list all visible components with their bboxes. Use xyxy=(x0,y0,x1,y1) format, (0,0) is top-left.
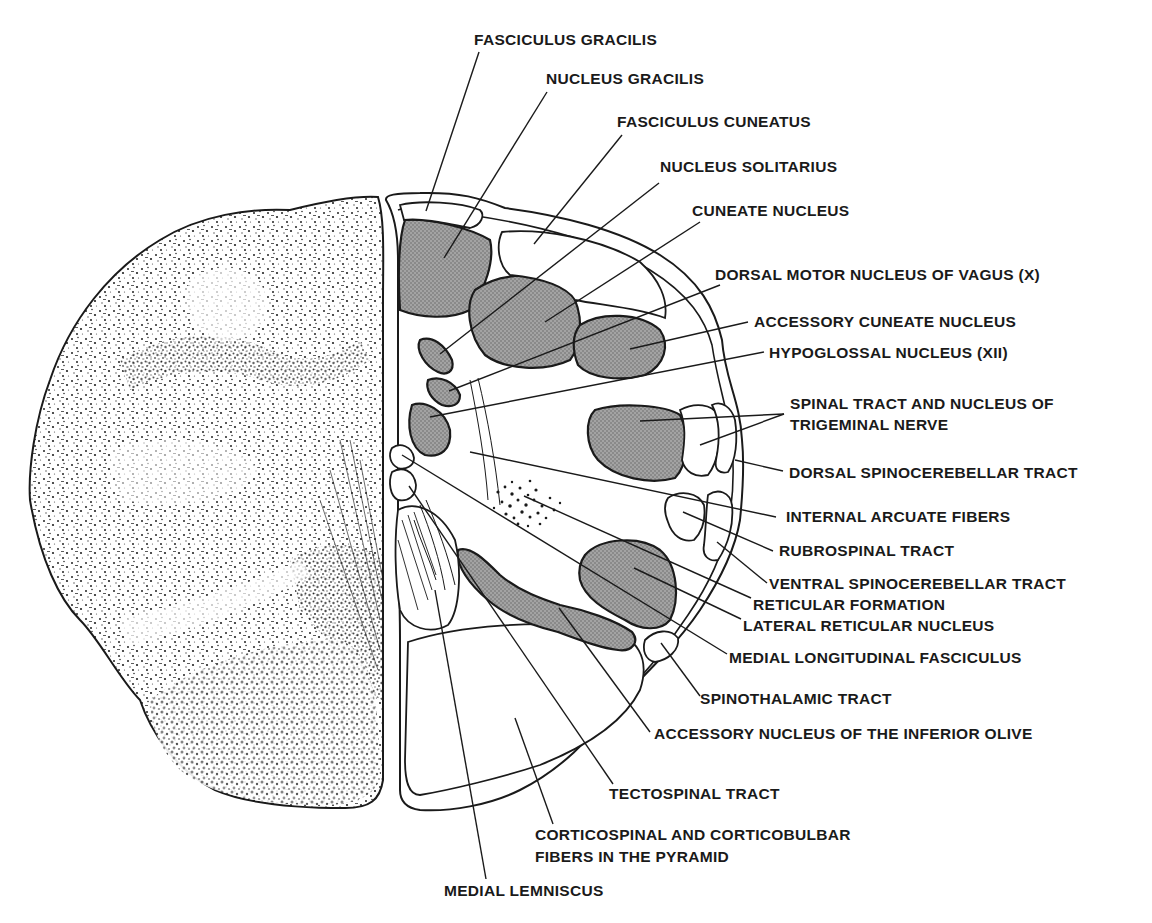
label-reticular-formation: RETICULAR FORMATION xyxy=(753,596,945,613)
labels: FASCICULUS GRACILIS NUCLEUS GRACILIS FAS… xyxy=(444,31,1078,899)
label-internal-arcuate: INTERNAL ARCUATE FIBERS xyxy=(786,508,1010,525)
label-medial-lemniscus: MEDIAL LEMNISCUS xyxy=(444,882,604,899)
tectospinal-tract xyxy=(390,469,416,500)
label-tectospinal: TECTOSPINAL TRACT xyxy=(609,785,780,802)
label-mlf: MEDIAL LONGITUDINAL FASCICULUS xyxy=(729,649,1022,666)
schematic-section xyxy=(386,193,743,810)
dorsal-motor-vagus-shape xyxy=(427,378,460,406)
label-hypoglossal: HYPOGLOSSAL NUCLEUS (XII) xyxy=(769,344,1008,361)
label-spinothalamic: SPINOTHALAMIC TRACT xyxy=(700,690,892,707)
label-accessory-olive: ACCESSORY NUCLEUS OF THE INFERIOR OLIVE xyxy=(654,725,1033,742)
leader-fasciculus-gracilis xyxy=(426,52,479,211)
histological-section xyxy=(30,197,384,808)
hypoglossal-nucleus-shape xyxy=(409,404,450,456)
pyramid xyxy=(405,624,644,795)
label-rubrospinal: RUBROSPINAL TRACT xyxy=(779,542,955,559)
medulla-diagram: FASCICULUS GRACILIS NUCLEUS GRACILIS FAS… xyxy=(0,0,1152,923)
leader-ventral-spinocerebellar xyxy=(717,542,767,583)
label-spinal-trigeminal-line1: SPINAL TRACT AND NUCLEUS OF xyxy=(790,395,1054,412)
leader-spinothalamic xyxy=(661,643,700,696)
label-accessory-cuneate: ACCESSORY CUNEATE NUCLEUS xyxy=(754,313,1016,330)
label-cuneate-nucleus: CUNEATE NUCLEUS xyxy=(692,202,850,219)
label-fasciculus-gracilis: FASCICULUS GRACILIS xyxy=(474,31,657,48)
label-ventral-spinocerebellar: VENTRAL SPINOCEREBELLAR TRACT xyxy=(769,575,1066,592)
label-corticospinal-line2: FIBERS IN THE PYRAMID xyxy=(535,848,729,865)
accessory-cuneate-nucleus-shape xyxy=(574,316,665,379)
spinothalamic-tract xyxy=(644,631,678,662)
label-dorsal-spinocerebellar: DORSAL SPINOCEREBELLAR TRACT xyxy=(789,464,1078,481)
reticular-formation-dots xyxy=(493,480,561,528)
label-nucleus-gracilis: NUCLEUS GRACILIS xyxy=(546,70,704,87)
spinal-trigeminal-nucleus-shape xyxy=(588,405,686,480)
label-corticospinal-line1: CORTICOSPINAL AND CORTICOBULBAR xyxy=(535,826,851,843)
nucleus-solitarius-shape xyxy=(419,339,453,374)
label-fasciculus-cuneatus: FASCICULUS CUNEATUS xyxy=(617,113,811,130)
leader-fasciculus-cuneatus xyxy=(534,135,622,244)
label-nucleus-solitarius: NUCLEUS SOLITARIUS xyxy=(660,158,837,175)
label-dorsal-motor-vagus: DORSAL MOTOR NUCLEUS OF VAGUS (X) xyxy=(715,266,1040,283)
label-spinal-trigeminal-line2: TRIGEMINAL NERVE xyxy=(790,416,948,433)
mlf-tract xyxy=(390,445,414,468)
label-lateral-reticular: LATERAL RETICULAR NUCLEUS xyxy=(743,617,994,634)
